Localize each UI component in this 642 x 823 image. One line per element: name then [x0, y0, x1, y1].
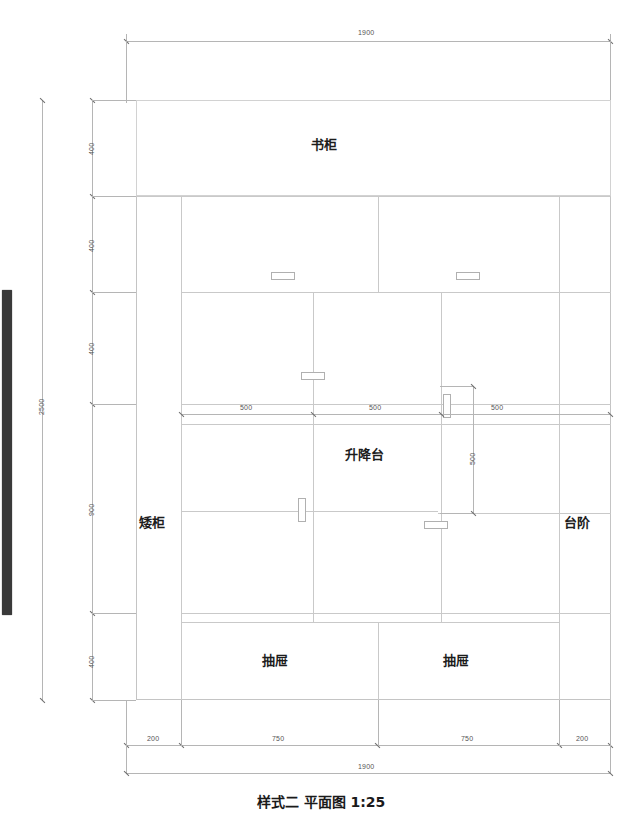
handle-lower-middle[interactable] — [424, 521, 448, 529]
bottom-stack-dimension-line — [126, 745, 611, 746]
bottom-ext-3 — [559, 700, 560, 746]
handle-vertical-left[interactable] — [298, 498, 306, 522]
bottom-overall-ext-right — [610, 745, 611, 774]
top-ext-line-frame-right — [610, 41, 611, 103]
grid-line-y622 — [181, 622, 559, 623]
left-dim-text-2: 400 — [88, 343, 95, 355]
grid-line-y511 — [181, 511, 438, 512]
left-ext-0 — [92, 100, 136, 101]
bottom-ext-1 — [181, 700, 182, 746]
mid-dimension-line — [181, 414, 611, 415]
top-ext-line-frame-left — [126, 41, 127, 103]
left-dim-text-3: 900 — [88, 504, 95, 516]
drawer-right-label: 抽屉 — [443, 650, 469, 669]
left-dim-text-4: 400 — [88, 656, 95, 668]
bookshelf-label: 书柜 — [311, 134, 337, 153]
left-ext-1 — [92, 196, 136, 197]
drawing-caption: 样式二 平面图 1:25 — [0, 791, 642, 811]
bottom-ext-0 — [126, 700, 127, 746]
grid-line-x181 — [181, 196, 182, 700]
mid-vertical-dim-text: 500 — [469, 453, 476, 465]
left-ext-4 — [92, 613, 136, 614]
mid-vertical-dimension-line — [473, 386, 474, 513]
left-ext-5 — [92, 700, 136, 701]
bottom-dim-text-1: 750 — [272, 735, 284, 742]
step-label: 台阶 — [564, 512, 590, 531]
mid-vertical-ext-top — [440, 386, 474, 387]
low-cabinet-label: 矮柜 — [139, 512, 165, 531]
bottom-dim-text-2: 750 — [461, 735, 473, 742]
left-stack-dimension-line — [92, 100, 93, 701]
bottom-overall-dimension-line — [126, 773, 611, 774]
grid-line-x378-upper — [378, 196, 379, 292]
bottom-overall-dimension-text: 1900 — [358, 763, 374, 770]
bottom-dim-text-3: 200 — [576, 735, 588, 742]
mid-dim-text-1: 500 — [369, 404, 381, 411]
grid-line-y613 — [181, 613, 611, 614]
top-overall-dimension-text: 1900 — [358, 29, 374, 36]
grid-line-x378-lower — [378, 622, 379, 700]
bottom-dim-text-0: 200 — [147, 735, 159, 742]
bottom-ext-2 — [378, 700, 379, 746]
grid-line-y292 — [181, 292, 611, 293]
mid-vertical-ext-bottom — [440, 513, 474, 514]
left-overall-dimension-text: 2500 — [38, 399, 45, 415]
mid-dim-text-2: 500 — [491, 404, 503, 411]
handle-upper-left[interactable] — [271, 272, 295, 280]
grid-line-x313-mid — [313, 292, 314, 622]
handle-middle[interactable] — [301, 372, 325, 380]
furniture-plan-drawing: { "drawing": { "caption": "样式二 平面图 1:25"… — [0, 0, 642, 823]
grid-line-x441-mid — [441, 292, 442, 622]
drawer-left-label: 抽屉 — [262, 650, 288, 669]
grid-line-x559 — [559, 196, 560, 700]
top-dimension-line — [126, 41, 611, 42]
bottom-overall-ext-left — [126, 745, 127, 774]
bottom-ext-4 — [610, 700, 611, 746]
bookshelf-region — [136, 100, 611, 196]
handle-upper-right[interactable] — [456, 272, 480, 280]
left-ext-3 — [92, 404, 136, 405]
page-edge-bar — [2, 290, 12, 615]
left-ext-2 — [92, 292, 136, 293]
grid-line-y196 — [136, 196, 611, 197]
left-dim-text-0: 400 — [88, 143, 95, 155]
grid-line-y424 — [181, 424, 611, 425]
left-dim-text-1: 400 — [88, 240, 95, 252]
lift-platform-label: 升降台 — [345, 444, 384, 463]
mid-dim-text-0: 500 — [240, 404, 252, 411]
